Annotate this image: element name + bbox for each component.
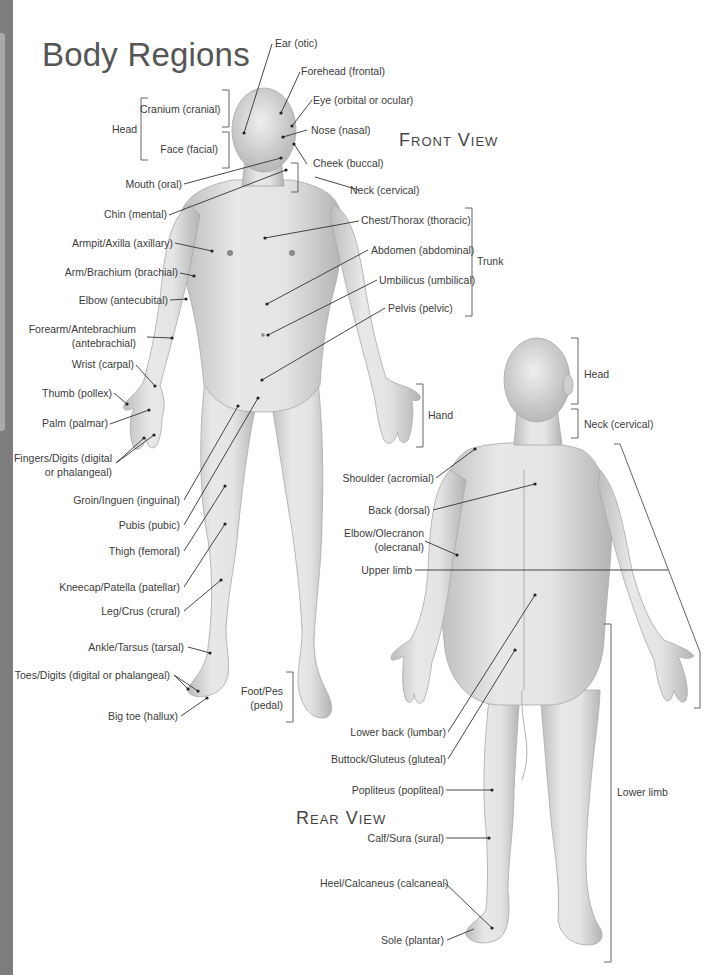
label-back: Back (dorsal) (330, 504, 430, 517)
label-sole: Sole (plantar) (330, 934, 444, 947)
label-lower-back: Lower back (lumbar) (330, 726, 446, 739)
label-cranium: Cranium (cranial) (140, 103, 218, 116)
label-foot-line2: (pedal) (230, 699, 283, 712)
label-calf: Calf/Sura (sural) (330, 832, 444, 845)
label-eye: Eye (orbital or ocular) (313, 94, 413, 107)
label-wrist: Wrist (carpal) (10, 358, 134, 371)
label-hand-group: Hand (428, 409, 453, 422)
label-abdomen: Abdomen (abdominal) (371, 244, 474, 257)
label-buttock: Buttock/Gluteus (gluteal) (320, 753, 446, 766)
label-arm: Arm/Brachium (brachial) (20, 266, 178, 279)
label-thumb: Thumb (pollex) (10, 387, 112, 400)
label-ear: Ear (otic) (275, 37, 318, 50)
label-face: Face (facial) (140, 143, 218, 156)
label-head-group-front: Head (112, 123, 137, 136)
label-forearm-line2: (antebrachial) (10, 337, 136, 350)
label-shoulder: Shoulder (acromial) (330, 472, 434, 485)
label-heel: Heel/Calcaneus (calcaneal) (320, 877, 442, 890)
label-big-toe: Big toe (hallux) (40, 710, 178, 723)
label-thigh: Thigh (femoral) (40, 545, 180, 558)
label-fingers-line1: Fingers/Digits (digital (10, 452, 112, 465)
label-neck-front: Neck (cervical) (350, 184, 419, 197)
label-upper-limb: Upper limb (330, 564, 412, 577)
label-palm: Palm (palmar) (10, 417, 108, 430)
label-foot-line1: Foot/Pes (230, 685, 283, 698)
rear-view-title: Rear View (296, 808, 386, 829)
label-umbilicus: Umbilicus (umbilical) (379, 274, 475, 287)
label-toes: Toes/Digits (digital or phalangeal) (10, 669, 170, 682)
label-armpit: Armpit/Axilla (axillary) (20, 237, 173, 250)
label-trunk-group: Trunk (477, 255, 503, 268)
label-elbow-rear-line1: Elbow/Olecranon (330, 527, 424, 540)
label-forearm-line1: Forearm/Antebrachium (10, 323, 136, 336)
label-nose: Nose (nasal) (311, 124, 371, 137)
label-pubis: Pubis (pubic) (40, 519, 180, 532)
label-kneecap: Kneecap/Patella (patellar) (20, 581, 180, 594)
label-neck-rear: Neck (cervical) (584, 418, 653, 431)
label-groin: Groin/Inguen (inguinal) (40, 494, 180, 507)
label-fingers-line2: or phalangeal) (10, 466, 112, 479)
label-chest: Chest/Thorax (thoracic) (361, 214, 471, 227)
label-leg: Leg/Crus (crural) (40, 605, 180, 618)
label-mouth: Mouth (oral) (60, 178, 182, 191)
label-lower-limb: Lower limb (617, 786, 668, 799)
label-popliteus: Popliteus (popliteal) (330, 784, 444, 797)
label-forehead: Forehead (frontal) (301, 65, 385, 78)
label-elbow-rear-line2: (olecranal) (330, 541, 424, 554)
label-elbow-front: Elbow (antecubital) (20, 294, 168, 307)
front-view-title: Front View (399, 130, 498, 151)
label-chin: Chin (mental) (40, 208, 167, 221)
label-pelvis: Pelvis (pelvic) (388, 302, 453, 315)
label-cheek: Cheek (buccal) (313, 157, 384, 170)
label-ankle: Ankle/Tarsus (tarsal) (40, 641, 184, 654)
label-head-group-rear: Head (584, 368, 609, 381)
